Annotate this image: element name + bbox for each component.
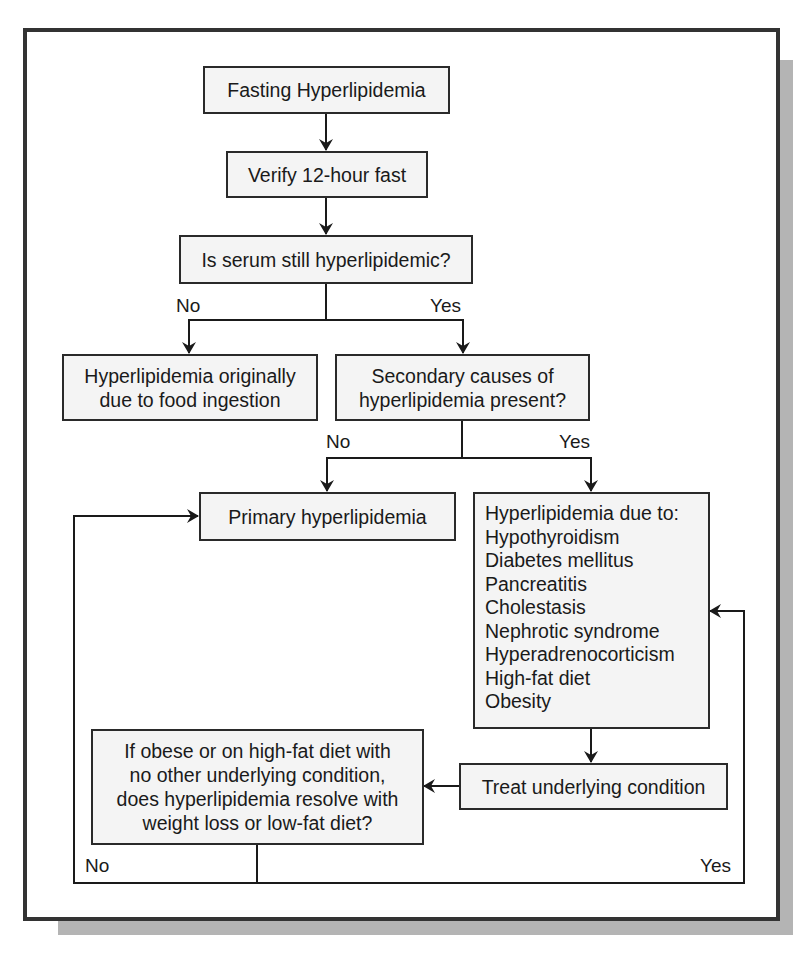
cause-item: Hypothyroidism [485,526,679,550]
node-treat-underlying: Treat underlying condition [459,763,728,810]
node-still-text: Is serum still hyperlipidemic? [201,248,450,272]
node-food-line-1: Hyperlipidemia originally [84,364,295,388]
label-still-no: No [176,296,200,316]
edge-secondary-yes [462,458,591,491]
causes-heading: Hyperlipidemia due to: [485,502,679,526]
node-food-line-2: due to food ingestion [99,388,280,412]
label-secondary-no: No [326,432,350,452]
label-resolve-no: No [85,856,109,876]
cause-item: Diabetes mellitus [485,549,679,573]
node-still-hyperlipidemic: Is serum still hyperlipidemic? [179,235,473,284]
cause-item: High-fat diet [485,667,679,691]
label-still-yes: Yes [430,296,461,316]
node-resolve-question: If obese or on high-fat diet with no oth… [91,729,424,845]
cause-item: Hyperadrenocorticism [485,643,679,667]
node-verify-fast: Verify 12-hour fast [226,151,428,198]
node-verify-text: Verify 12-hour fast [248,163,406,187]
node-fasting-hyperlipidemia: Fasting Hyperlipidemia [203,66,450,114]
label-resolve-yes: Yes [700,856,731,876]
node-secondary-line-2: hyperlipidemia present? [359,388,566,412]
label-secondary-yes: Yes [559,432,590,452]
node-secondary-line-1: Secondary causes of [371,364,553,388]
cause-item: Pancreatitis [485,573,679,597]
edge-secondary-no [327,458,462,491]
node-primary-text: Primary hyperlipidemia [228,505,426,529]
node-resolve-line-2: no other underlying condition, [130,763,386,787]
node-resolve-line-4: weight loss or low-fat diet? [143,811,373,835]
node-secondary-causes: Secondary causes of hyperlipidemia prese… [335,354,590,421]
edge-still-yes [326,320,463,353]
cause-item: Cholestasis [485,596,679,620]
node-resolve-line-1: If obese or on high-fat diet with [124,739,391,763]
edge-still-no [189,320,326,353]
node-resolve-line-3: does hyperlipidemia resolve with [117,787,399,811]
node-secondary-causes-list: Hyperlipidemia due to: Hypothyroidism Di… [473,492,710,729]
node-treat-text: Treat underlying condition [482,775,706,799]
cause-item: Nephrotic syndrome [485,620,679,644]
node-food-ingestion: Hyperlipidemia originally due to food in… [62,354,318,421]
node-primary-hyperlipidemia: Primary hyperlipidemia [199,492,456,541]
cause-item: Obesity [485,690,679,714]
node-fasting-text: Fasting Hyperlipidemia [227,78,425,102]
causes-list: Hyperlipidemia due to: Hypothyroidism Di… [485,502,679,714]
